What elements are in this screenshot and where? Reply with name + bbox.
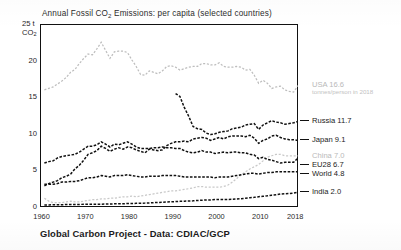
x-tick-label: 1980 [121,212,137,221]
legend-entry-world[interactable]: World 4.8 [312,169,344,178]
legend-label: Japan 9.1 [312,135,345,144]
legend-entry-india[interactable]: India 2.0 [312,187,341,196]
legend-label: China 7.0 [312,151,345,160]
y-tick-label: 10 [29,129,37,138]
legend-entry-eu28[interactable]: EU28 6.7 [312,160,344,169]
series-line-india [44,192,298,205]
legend-unit-note: tonnes/person in 2018 [312,88,373,95]
legend-entry-china[interactable]: China 7.0 [312,151,345,160]
chart-title-subscript: 2 [108,13,112,19]
series-line-usa [44,42,298,92]
series-line-russia [176,94,298,135]
chart-source-footer: Global Carbon Project - Data: CDIAC/GCP [40,228,230,239]
y-axis-tick-labels: 05101520 [0,0,37,250]
y-tick-label: 15 [29,92,37,101]
y-tick-label: 0 [33,202,37,211]
legend-label: India 2.0 [312,187,341,196]
x-tick-label: 1990 [165,212,181,221]
legend-entry-russia[interactable]: Russia 11.7 [312,116,352,125]
legend-label: EU28 6.7 [312,160,344,169]
legend-label: World 4.8 [312,169,344,178]
chart-root: Annual Fossil CO2 Emissions: per capita … [0,0,401,250]
legend-dash-world [300,173,309,174]
chart-title-suffix: Emissions: per capita (selected countrie… [112,9,272,18]
legend-dash-russia [300,120,309,121]
legend: USA 16.6tonnes/person in 2018Russia 11.7… [300,0,401,250]
x-tick-label: 2010 [252,212,268,221]
legend-dash-india [300,191,309,192]
legend-dash-eu28 [300,164,309,165]
y-tick-label: 20 [29,56,37,65]
legend-entry-japan[interactable]: Japan 9.1 [312,135,345,144]
series-line-eu28 [44,142,298,163]
y-tick-label: 5 [33,165,37,174]
series-line-japan [44,135,298,186]
series-line-world [44,172,298,184]
legend-dash-japan [300,139,309,140]
x-tick-label: 2000 [208,212,224,221]
plot-series-svg [40,24,298,207]
chart-title-prefix: Annual Fossil CO [42,9,108,18]
legend-label: Russia 11.7 [312,116,352,125]
chart-title: Annual Fossil CO2 Emissions: per capita … [42,9,272,18]
x-tick-label: 1960 [33,212,49,221]
x-tick-label: 1970 [77,212,93,221]
